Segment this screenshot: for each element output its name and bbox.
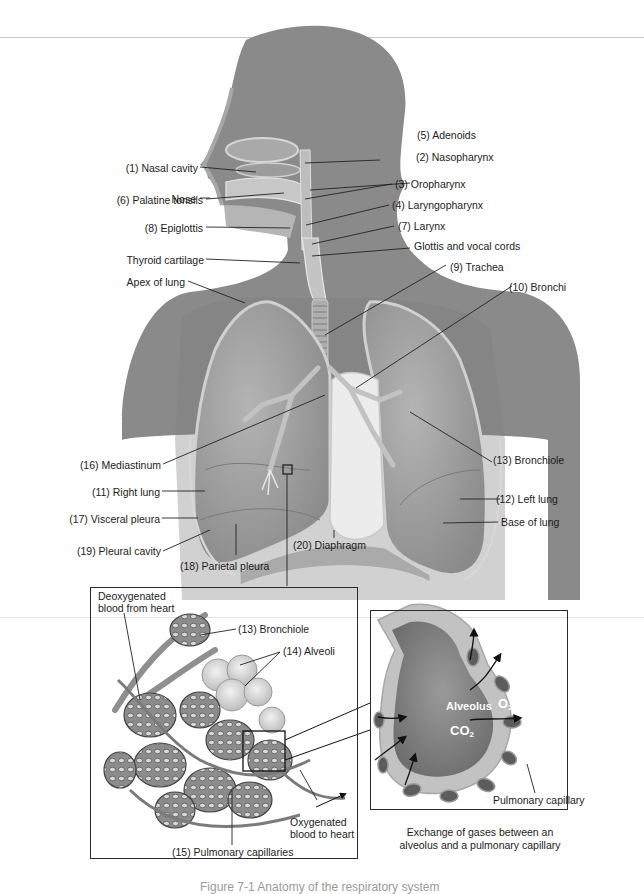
label-deoxygenated-line2: blood from heart (98, 602, 174, 614)
label-nasal-cavity: (1) Nasal cavity (126, 162, 198, 174)
label-epiglottis: (8) Epiglottis (145, 222, 203, 234)
label-alveoli: (14) Alveoli (283, 645, 335, 657)
label-oropharynx: (3) Oropharynx (395, 178, 466, 190)
label-pulmonary-capillary: Pulmonary capillary (493, 794, 585, 806)
label-base-of-lung: Base of lung (501, 516, 559, 528)
label-visceral-pleura: (17) Visceral pleura (69, 513, 160, 525)
figure-caption-clipped: Figure 7-1 Anatomy of the respiratory sy… (200, 880, 439, 894)
label-trachea: (9) Trachea (450, 261, 504, 273)
label-co2: CO2 (450, 725, 474, 741)
label-adenoids: (5) Adenoids (417, 129, 476, 141)
label-alveolus: Alveolus (446, 700, 492, 712)
label-inset-bronchiole: (13) Bronchiole (238, 623, 309, 635)
label-bronchiole: (13) Bronchiole (493, 454, 564, 466)
label-deoxygenated-blood: Deoxygenated blood from heart (98, 590, 174, 614)
co2-subscript: 2 (470, 730, 474, 739)
co2-symbol: CO (450, 723, 470, 738)
label-pleural-cavity: (19) Pleural cavity (77, 545, 161, 557)
label-nasopharynx: (2) Nasopharynx (416, 151, 494, 163)
o2-symbol: O (498, 696, 508, 711)
label-pulmonary-capillaries: (15) Pulmonary capillaries (172, 846, 293, 858)
label-diaphragm: (20) Diaphragm (293, 539, 366, 551)
gas-exchange-caption: Exchange of gases between an alveolus an… (390, 826, 570, 852)
label-oxygenated-line2: blood to heart (290, 828, 354, 840)
label-bronchi: (10) Bronchi (509, 281, 566, 293)
label-o2: O2 (498, 698, 513, 714)
label-oxygenated-blood: Oxygenated blood to heart (290, 816, 354, 840)
gas-exchange-caption-line1: Exchange of gases between an (390, 826, 570, 839)
label-laryngopharynx: (4) Laryngopharynx (392, 199, 483, 211)
label-apex-of-lung: Apex of lung (127, 276, 185, 288)
label-thyroid-cartilage: Thyroid cartilage (126, 254, 204, 266)
label-mediastinum: (16) Mediastinum (80, 459, 161, 471)
label-left-lung: (12) Left lung (496, 493, 558, 505)
label-glottis-vocal-cords: Glottis and vocal cords (414, 240, 520, 252)
label-larynx: (7) Larynx (398, 220, 445, 232)
label-parietal-pleura: (18) Parietal pleura (180, 560, 269, 572)
label-palatine-tonsils: (6) Palatine tonsils (117, 194, 203, 206)
gas-exchange-caption-line2: alveolus and a pulmonary capillary (390, 839, 570, 852)
o2-subscript: 2 (508, 703, 512, 712)
label-deoxygenated-line1: Deoxygenated (98, 590, 174, 602)
label-oxygenated-line1: Oxygenated (290, 816, 354, 828)
label-right-lung: (11) Right lung (92, 486, 160, 498)
